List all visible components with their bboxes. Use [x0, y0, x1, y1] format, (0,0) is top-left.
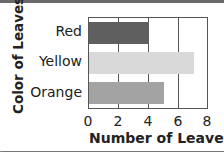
category-label-orange: Orange — [30, 84, 82, 100]
y-axis-label: Color of Leaves — [10, 0, 26, 114]
x-tick-2: 2 — [108, 113, 128, 129]
x-tick-4: 4 — [138, 113, 158, 129]
x-axis-label: Number of Leaves — [89, 130, 224, 146]
x-tick-6: 6 — [168, 113, 188, 129]
category-label-yellow: Yellow — [39, 53, 82, 69]
x-tick-0: 0 — [78, 113, 98, 129]
x-tick-8: 8 — [197, 113, 217, 129]
bar-orange — [89, 82, 164, 104]
bar-yellow — [89, 52, 194, 74]
category-label-red: Red — [55, 23, 82, 39]
bar-red — [89, 22, 149, 44]
plot-area — [88, 17, 208, 109]
